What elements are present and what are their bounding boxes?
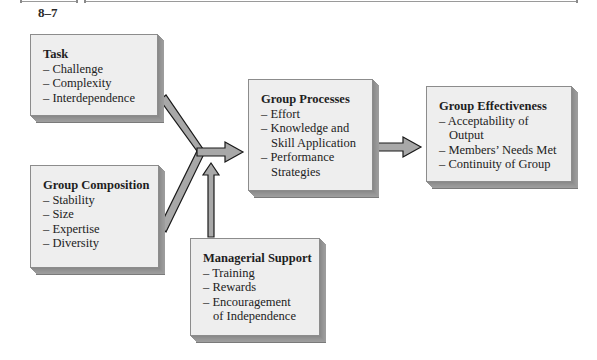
task-box: Task – Challenge – Complexity – Interdep… (30, 34, 158, 116)
processes-title: Group Processes (261, 92, 356, 107)
group-processes-box: Group Processes – Effort – Knowledge and… (248, 79, 373, 191)
task-connector-arrow (160, 95, 203, 151)
task-item-complexity: – Complexity (43, 76, 135, 91)
effectiveness-item-continuity: – Continuity of Group (439, 157, 556, 172)
effectiveness-item-acceptability: – Acceptability of (439, 114, 556, 129)
composition-item-stability: – Stability (43, 193, 149, 208)
composition-item-size: – Size (43, 207, 149, 222)
group-composition-box: Group Composition – Stability – Size – E… (30, 165, 159, 268)
effectiveness-title: Group Effectiveness (439, 99, 556, 114)
support-item-training: – Training (203, 266, 312, 281)
processes-item-performance: – Performance (261, 150, 356, 165)
processes-item-knowledge: – Knowledge and (261, 121, 356, 136)
to-effectiveness-arrow (376, 137, 421, 157)
group-effectiveness-box: Group Effectiveness – Acceptability of O… (426, 86, 572, 182)
support-item-rewards: – Rewards (203, 280, 312, 295)
support-item-encouragement-cont: of Independence (203, 309, 312, 324)
task-title: Task (43, 47, 135, 62)
to-processes-arrow (197, 142, 243, 162)
managerial-support-box: Managerial Support – Training – Rewards … (190, 238, 320, 336)
task-item-interdependence: – Interdependence (43, 91, 135, 106)
support-up-arrow (203, 163, 219, 237)
composition-item-expertise: – Expertise (43, 222, 149, 237)
processes-item-effort: – Effort (261, 107, 356, 122)
task-item-challenge: – Challenge (43, 62, 135, 77)
composition-title: Group Composition (43, 178, 149, 193)
effectiveness-item-acceptability-cont: Output (439, 128, 556, 143)
processes-item-performance-cont: Strategies (261, 165, 356, 180)
effectiveness-item-members-needs: – Members’ Needs Met (439, 143, 556, 158)
support-title: Managerial Support (203, 251, 312, 266)
processes-item-knowledge-cont: Skill Application (261, 136, 356, 151)
composition-connector-arrow (160, 151, 203, 232)
support-item-encouragement: – Encouragement (203, 295, 312, 310)
composition-item-diversity: – Diversity (43, 236, 149, 251)
